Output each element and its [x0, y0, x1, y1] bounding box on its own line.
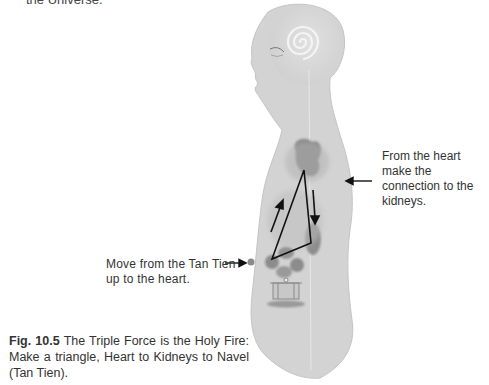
- annotation-tan-tien-to-heart: Move from the Tan Tien up to the heart.: [106, 257, 236, 287]
- pointer-arrow-to-back: [346, 178, 372, 185]
- tan-tien-dot: [248, 259, 255, 266]
- annotation-heart-to-kidneys: From the heart make the connection to th…: [382, 149, 489, 209]
- fire-base: [267, 301, 305, 308]
- figure-number: Fig. 10.5: [9, 334, 60, 348]
- figure-caption: Fig. 10.5 The Triple Force is the Holy F…: [9, 333, 249, 381]
